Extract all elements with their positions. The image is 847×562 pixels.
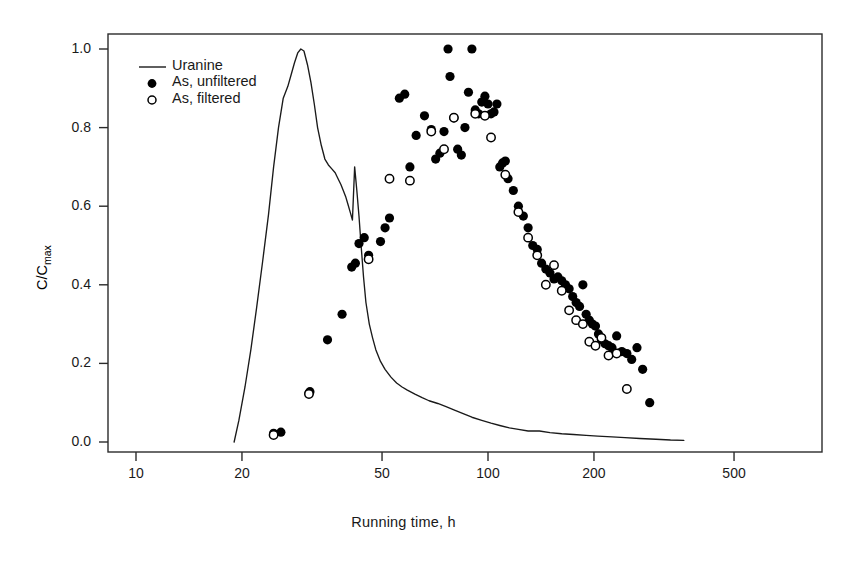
data-point	[483, 99, 492, 108]
data-point	[638, 365, 647, 374]
y-tick-label: 0.2	[51, 354, 91, 370]
data-point	[439, 127, 448, 136]
x-axis-label-text: Running time, h	[351, 514, 456, 530]
data-point	[509, 186, 518, 195]
data-point	[445, 72, 454, 81]
data-point	[575, 302, 584, 311]
data-point	[542, 281, 550, 289]
data-point	[323, 335, 332, 344]
data-point	[405, 162, 414, 171]
x-tick-label: 10	[106, 465, 166, 481]
x-tick-label: 100	[458, 465, 518, 481]
data-point	[591, 321, 600, 330]
data-point	[524, 223, 533, 232]
data-point	[533, 251, 541, 259]
legend-filled-circle-marker	[148, 79, 157, 88]
data-point	[480, 92, 489, 101]
x-tick-label: 50	[352, 465, 412, 481]
y-tick-label: 0.6	[51, 197, 91, 213]
data-point	[487, 133, 495, 141]
legend-open-circle-marker	[148, 96, 156, 104]
y-tick-label: 0.0	[51, 433, 91, 449]
legend-label-as-filtered: As, filtered	[172, 90, 241, 106]
data-point	[550, 261, 558, 269]
x-axis-label: Running time, h	[0, 514, 847, 530]
legend-item-as-unfiltered: As, unfiltered	[172, 73, 257, 89]
data-point	[460, 123, 469, 132]
data-point	[558, 286, 566, 294]
data-point	[351, 259, 360, 268]
data-point	[514, 208, 522, 216]
data-point	[380, 223, 389, 232]
y-tick-label: 1.0	[51, 40, 91, 56]
data-point	[632, 343, 641, 352]
legend-label-as-unfiltered: As, unfiltered	[172, 73, 257, 89]
data-point	[467, 44, 476, 53]
data-point	[360, 233, 369, 242]
legend-item-as-filtered: As, filtered	[172, 90, 257, 106]
data-point	[524, 233, 532, 241]
data-point	[400, 90, 409, 99]
data-point	[420, 111, 429, 120]
data-point	[457, 151, 466, 160]
data-point	[481, 112, 489, 120]
x-tick-label: 20	[212, 465, 272, 481]
data-point	[443, 44, 452, 53]
data-point	[565, 306, 573, 314]
data-point	[412, 131, 421, 140]
data-point	[305, 390, 313, 398]
y-tick-label: 0.8	[51, 119, 91, 135]
data-point	[269, 431, 277, 439]
data-point	[591, 342, 599, 350]
data-point	[376, 237, 385, 246]
data-point	[464, 88, 473, 97]
data-point	[597, 334, 605, 342]
data-point	[440, 145, 448, 153]
data-point	[450, 114, 458, 122]
data-point	[337, 310, 346, 319]
x-tick-label: 200	[564, 465, 624, 481]
data-point	[612, 349, 620, 357]
data-point	[406, 176, 414, 184]
legend-item-uranine: Uranine	[172, 57, 257, 73]
data-point	[364, 255, 372, 263]
data-point	[627, 355, 636, 364]
x-axis-ticks	[136, 452, 734, 461]
legend-label-uranine: Uranine	[172, 57, 223, 73]
data-point	[492, 99, 501, 108]
data-point	[645, 398, 654, 407]
data-point	[501, 156, 510, 165]
y-tick-label: 0.4	[51, 276, 91, 292]
data-point	[427, 127, 435, 135]
data-point	[501, 171, 509, 179]
y-axis-ticks	[99, 49, 108, 442]
data-point	[471, 110, 479, 118]
x-tick-label: 500	[704, 465, 764, 481]
data-point	[578, 280, 587, 289]
data-point	[579, 320, 587, 328]
data-point	[604, 351, 612, 359]
data-point	[385, 174, 393, 182]
data-point	[623, 385, 631, 393]
y-axis-label-subscript: max	[41, 245, 53, 265]
data-point	[489, 107, 498, 116]
data-point	[385, 213, 394, 222]
chart-legend: Uranine As, unfiltered As, filtered	[172, 57, 257, 106]
figure-canvas: C/Cmax Running time, h Uranine As, unfil…	[0, 0, 847, 562]
data-point	[612, 331, 621, 340]
y-axis-label-text: C/C	[34, 265, 50, 290]
